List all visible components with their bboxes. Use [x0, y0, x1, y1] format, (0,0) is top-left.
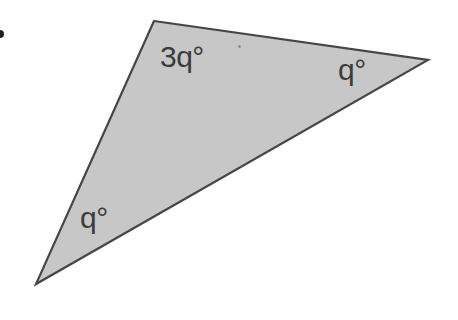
- angle-label-bottom-left: q°: [80, 203, 108, 233]
- angle-label-top: 3q°: [160, 42, 204, 72]
- triangle-shape: [36, 21, 428, 284]
- print-speck: [238, 45, 241, 48]
- angle-label-right: q°: [338, 55, 366, 85]
- geometry-figure: 3q° q° q°: [0, 0, 458, 320]
- triangle-svg: [0, 0, 458, 320]
